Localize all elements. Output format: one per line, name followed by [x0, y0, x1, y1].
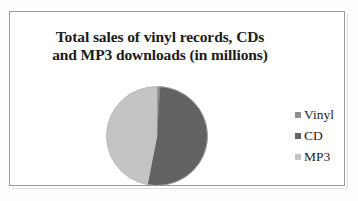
legend-item-cd[interactable]: CD	[295, 125, 353, 146]
pie-chart	[98, 78, 216, 194]
chart-frame: Total sales of vinyl records, CDs and MP…	[9, 11, 345, 186]
legend-swatch-cd	[295, 133, 301, 139]
chart-title-line-2: and MP3 downloads (in millions)	[26, 46, 294, 64]
figure-root: Total sales of vinyl records, CDs and MP…	[0, 0, 358, 201]
legend-swatch-mp3	[295, 154, 301, 160]
pie-slice-group	[107, 87, 208, 186]
legend-item-mp3[interactable]: MP3	[295, 146, 353, 167]
pie-svg	[98, 78, 216, 194]
legend-swatch-vinyl	[295, 112, 301, 118]
chart-legend: Vinyl CD MP3	[295, 104, 353, 167]
legend-label-cd: CD	[304, 129, 323, 143]
legend-label-mp3: MP3	[304, 150, 330, 164]
pie-slice-mp3[interactable]	[107, 87, 157, 185]
chart-title-line-1: Total sales of vinyl records, CDs	[26, 28, 294, 46]
chart-title: Total sales of vinyl records, CDs and MP…	[26, 28, 294, 63]
legend-item-vinyl[interactable]: Vinyl	[295, 104, 353, 125]
legend-label-vinyl: Vinyl	[304, 108, 334, 122]
